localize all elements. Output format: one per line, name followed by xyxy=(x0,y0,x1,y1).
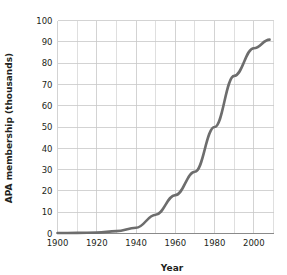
x-axis-tick-label: 1900 xyxy=(47,238,69,248)
x-axis-tick-label: 1940 xyxy=(125,238,147,248)
y-axis-tick-labels: 0102030405060708090100 xyxy=(36,16,52,239)
y-axis-tick-label: 10 xyxy=(42,207,53,217)
x-axis-tick-label: 1960 xyxy=(164,238,186,248)
y-axis-tick-label: 60 xyxy=(42,101,53,111)
x-axis-title: Year xyxy=(160,263,184,273)
y-axis-tick-label: 90 xyxy=(42,37,53,47)
x-axis-tick-label: 1980 xyxy=(204,238,226,248)
y-axis-tick-label: 40 xyxy=(42,144,53,154)
horizontal-gridlines xyxy=(58,21,274,234)
y-axis-tick-label: 50 xyxy=(42,122,53,132)
y-axis-title: APA membership (thousands) xyxy=(4,53,14,203)
y-axis-tick-label: 30 xyxy=(42,165,53,175)
y-axis-tick-label: 80 xyxy=(42,58,53,68)
y-axis-tick-label: 70 xyxy=(42,80,53,90)
x-axis-tick-label: 1920 xyxy=(86,238,108,248)
line-chart-figure: 0102030405060708090100 19001920194019601… xyxy=(0,0,287,275)
x-axis-tick-label: 2000 xyxy=(243,238,265,248)
y-axis-tick-label: 100 xyxy=(36,16,52,26)
x-axis-tick-labels: 190019201940196019802000 xyxy=(47,238,265,248)
chart-plot-area: 0102030405060708090100 19001920194019601… xyxy=(0,0,287,275)
data-series-line xyxy=(58,40,270,233)
y-axis-tick-label: 20 xyxy=(42,186,53,196)
